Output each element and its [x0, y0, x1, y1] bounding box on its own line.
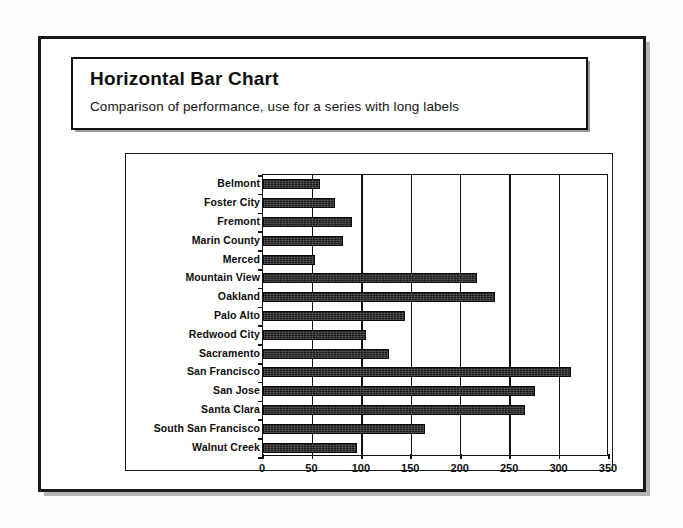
- bar[interactable]: [263, 198, 335, 208]
- bar[interactable]: [263, 386, 535, 396]
- y-axis-tick: [258, 325, 263, 327]
- category-label: Merced: [223, 254, 260, 264]
- y-axis-tick: [258, 457, 263, 459]
- bar[interactable]: [263, 217, 352, 227]
- y-axis-tick: [258, 344, 263, 346]
- bar[interactable]: [263, 273, 477, 283]
- bar[interactable]: [263, 179, 320, 189]
- y-axis-tick: [258, 438, 263, 440]
- category-label: Santa Clara: [201, 404, 260, 414]
- category-label: San Jose: [213, 385, 260, 395]
- category-label: Sacramento: [199, 348, 260, 358]
- x-axis-tick-label: 100: [341, 462, 381, 474]
- bar[interactable]: [263, 255, 315, 265]
- x-axis-tick: [509, 454, 511, 459]
- bar-row: [263, 405, 609, 415]
- bar-row: [263, 424, 609, 434]
- bar-row: [263, 198, 609, 208]
- slide-frame: Horizontal Bar Chart Comparison of perfo…: [38, 36, 646, 492]
- bar[interactable]: [263, 236, 343, 246]
- bar-row: [263, 443, 609, 453]
- title-panel: Horizontal Bar Chart Comparison of perfo…: [71, 57, 588, 130]
- category-label: Belmont: [217, 178, 260, 188]
- bar-row: [263, 217, 609, 227]
- y-axis-tick: [258, 419, 263, 421]
- x-axis-tick: [460, 454, 462, 459]
- x-axis-tick-label: 350: [588, 462, 628, 474]
- x-axis-tick: [410, 454, 412, 459]
- y-axis-tick: [258, 231, 263, 233]
- category-label: Mountain View: [185, 272, 260, 282]
- bar-row: [263, 367, 609, 377]
- category-label: Palo Alto: [214, 310, 260, 320]
- category-label: Walnut Creek: [192, 442, 260, 452]
- category-label: Redwood City: [189, 329, 260, 339]
- x-axis-tick: [559, 454, 561, 459]
- category-label: South San Francisco: [154, 423, 260, 433]
- bar[interactable]: [263, 292, 495, 302]
- x-axis-tick: [608, 454, 610, 459]
- bar-row: [263, 349, 609, 359]
- bar-row: [263, 179, 609, 189]
- category-label: San Francisco: [187, 366, 260, 376]
- bar[interactable]: [263, 330, 366, 340]
- y-axis-tick: [258, 250, 263, 252]
- x-axis-tick: [361, 454, 363, 459]
- x-axis-tick-label: 50: [291, 462, 331, 474]
- page-subtitle: Comparison of performance, use for a ser…: [90, 99, 459, 114]
- page-title: Horizontal Bar Chart: [90, 68, 279, 90]
- x-axis-tick: [312, 454, 314, 459]
- category-label: Marin County: [192, 235, 260, 245]
- y-axis-tick: [258, 363, 263, 365]
- y-axis-tick: [258, 288, 263, 290]
- bar[interactable]: [263, 367, 571, 377]
- bar-row: [263, 236, 609, 246]
- bar-row: [263, 386, 609, 396]
- y-axis-tick: [258, 269, 263, 271]
- page-background: Horizontal Bar Chart Comparison of perfo…: [0, 0, 683, 528]
- category-label: Foster City: [204, 197, 260, 207]
- category-label: Oakland: [218, 291, 260, 301]
- x-axis-tick-label: 150: [390, 462, 430, 474]
- y-axis-tick: [258, 307, 263, 309]
- chart-container: 050100150200250300350 BelmontFoster City…: [125, 153, 613, 471]
- x-axis-tick-label: 300: [539, 462, 579, 474]
- plot-area: [262, 174, 608, 456]
- bar-row: [263, 292, 609, 302]
- category-label: Fremont: [217, 216, 260, 226]
- bar-row: [263, 311, 609, 321]
- y-axis-tick: [258, 213, 263, 215]
- x-axis-tick-label: 0: [242, 462, 282, 474]
- bar[interactable]: [263, 311, 405, 321]
- bar[interactable]: [263, 443, 357, 453]
- bar-row: [263, 330, 609, 340]
- bar[interactable]: [263, 405, 525, 415]
- bar[interactable]: [263, 424, 425, 434]
- y-axis-tick: [258, 194, 263, 196]
- bar[interactable]: [263, 349, 389, 359]
- bar-row: [263, 273, 609, 283]
- y-axis-tick: [258, 175, 263, 177]
- x-axis-tick-label: 250: [489, 462, 529, 474]
- y-axis-tick: [258, 401, 263, 403]
- y-axis-tick: [258, 382, 263, 384]
- x-axis-tick-label: 200: [440, 462, 480, 474]
- bar-row: [263, 255, 609, 265]
